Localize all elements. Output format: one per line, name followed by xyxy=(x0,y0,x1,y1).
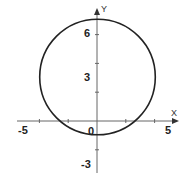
y-axis-label: Y xyxy=(101,5,107,14)
x-axis-arrow-icon xyxy=(172,118,179,124)
x-axis-label: X xyxy=(171,109,177,118)
x-tick-label-neg5: -5 xyxy=(18,125,28,136)
y-tick-label-6: 6 xyxy=(84,28,90,39)
x-tick-label-5: 5 xyxy=(165,125,171,136)
y-tick-label-3: 3 xyxy=(84,72,90,83)
origin-label: 0 xyxy=(88,126,94,137)
chart-plot-area xyxy=(0,0,190,175)
y-axis-arrow-icon xyxy=(94,8,100,15)
y-tick-label-neg3: -3 xyxy=(81,159,91,170)
